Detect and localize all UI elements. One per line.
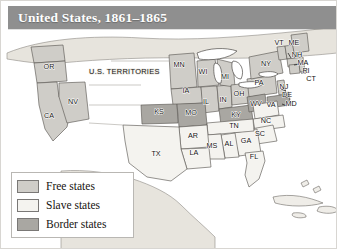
state-label-tn: TN <box>229 121 239 130</box>
state-label-nc: NC <box>261 116 271 125</box>
state-label-ca: CA <box>44 111 54 120</box>
state-label-wi: WI <box>199 67 208 76</box>
legend-item-border: Border states <box>17 215 128 234</box>
state-label-ct: CT <box>306 74 316 83</box>
state-label-in: IN <box>219 95 226 104</box>
state-label-sc: SC <box>255 129 265 138</box>
state-label-la: LA <box>190 148 199 157</box>
state-label-ga: GA <box>241 136 252 145</box>
state-label-ky: KY <box>231 110 241 119</box>
state-label-oh: OH <box>234 89 245 98</box>
state-label-ms: MS <box>207 141 218 150</box>
legend-label-free: Free states <box>46 181 95 193</box>
map-title-bar: United States, 1861–1865 <box>8 6 337 29</box>
state-label-ar: AR <box>188 131 198 140</box>
legend-label-border: Border states <box>46 219 106 231</box>
legend-swatch-border <box>17 218 39 231</box>
legend-label-slave: Slave states <box>46 200 100 212</box>
state-label-or: OR <box>44 62 55 71</box>
state-label-me: ME <box>289 38 300 47</box>
state-mn <box>169 53 197 89</box>
legend-item-free: Free states <box>17 177 128 196</box>
state-label-va: VA <box>266 100 275 109</box>
state-label-vt: VT <box>274 38 284 47</box>
state-label-fl: FL <box>250 152 258 161</box>
map-figure: U.S. TERRITORIES ORNVCAMNWIIAILINMIOHPAN… <box>0 0 337 249</box>
state-label-nv: NV <box>68 97 78 106</box>
legend-swatch-free <box>17 180 39 193</box>
territories-label: U.S. TERRITORIES <box>89 67 160 76</box>
state-wa <box>31 45 65 63</box>
state-label-tx: TX <box>151 149 160 158</box>
state-label-md: MD <box>285 99 296 108</box>
state-label-pa: PA <box>254 78 263 87</box>
state-label-ia: IA <box>183 86 190 95</box>
state-label-wv: WV <box>250 99 262 108</box>
state-label-mn: MN <box>173 60 184 69</box>
state-label-mo: MO <box>185 108 197 117</box>
state-label-ks: KS <box>154 107 164 116</box>
state-label-ny: NY <box>261 59 271 68</box>
state-label-mi: MI <box>221 72 229 81</box>
legend-swatch-slave <box>17 199 39 212</box>
state-label-il: IL <box>203 97 209 106</box>
island-hispaniola <box>317 206 337 213</box>
state-label-al: AL <box>225 139 234 148</box>
map-legend: Free states Slave states Border states <box>11 172 134 238</box>
state-label-de: DE <box>282 90 292 99</box>
page-title: United States, 1861–1865 <box>8 10 167 26</box>
legend-item-slave: Slave states <box>17 196 128 215</box>
